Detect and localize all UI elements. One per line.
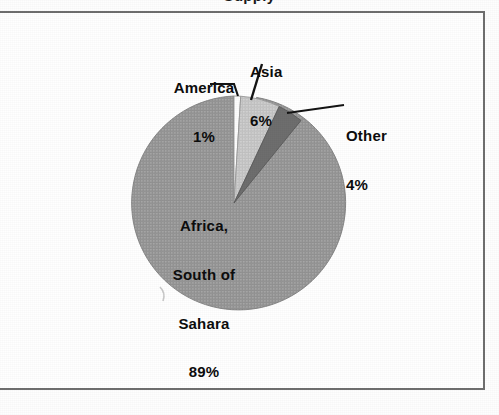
slice-label-africa-percent: 89% <box>144 364 264 380</box>
slice-label-africa: Africa, South of Sahara 89% <box>144 186 264 413</box>
slice-label-other: Other 4% <box>346 96 426 226</box>
slice-label-africa-line2: South of <box>144 267 264 283</box>
slice-label-other-percent: 4% <box>346 177 426 193</box>
slice-label-america-name: America <box>157 80 251 96</box>
slice-label-america-percent: 1% <box>157 129 251 145</box>
slice-label-africa-line1: Africa, <box>144 218 264 234</box>
slice-label-asia-name: Asia <box>250 64 330 80</box>
slice-label-africa-line3: Sahara <box>144 316 264 332</box>
slice-label-asia-percent: 6% <box>250 113 330 129</box>
slice-label-other-name: Other <box>346 128 426 144</box>
slice-label-asia: Asia 6% <box>250 32 330 162</box>
slice-label-america: America 1% <box>157 48 251 178</box>
scanned-page: Supply <box>0 0 499 415</box>
